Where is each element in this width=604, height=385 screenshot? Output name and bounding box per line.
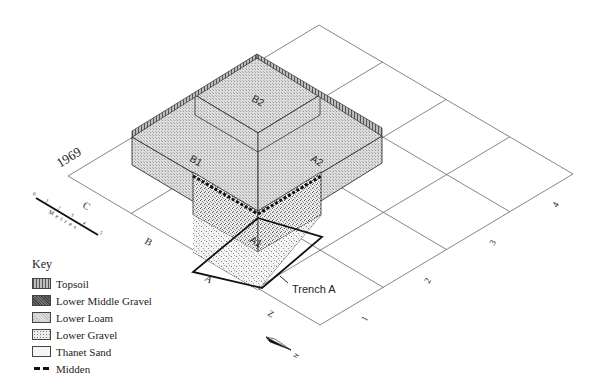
scale-tick-5: 5 xyxy=(99,230,104,236)
col-label-2: 2 xyxy=(422,276,433,285)
midden-swatch-icon xyxy=(32,363,51,374)
row-label-z: Z xyxy=(266,308,276,319)
legend-item-midden: Midden xyxy=(32,360,202,377)
topsoil-swatch-icon xyxy=(32,278,51,289)
legend-item-lower-loam: Lower Loam xyxy=(32,309,202,326)
year-label: 1969 xyxy=(54,144,84,170)
col-label-1: 1 xyxy=(359,314,370,323)
scale-unit-label: Metres xyxy=(47,209,80,232)
north-arrow-half xyxy=(266,337,291,350)
legend-label: Lower Loam xyxy=(56,312,113,324)
legend-label: Thanet Sand xyxy=(56,346,111,358)
legend-item-lower-middle-gravel: Lower Middle Gravel xyxy=(32,292,202,309)
col-label-4: 4 xyxy=(550,200,561,209)
trench-a-label: Trench A xyxy=(292,283,336,295)
row-label-c: C xyxy=(81,199,93,212)
lower-gravel-swatch-icon xyxy=(32,329,51,340)
legend-title: Key xyxy=(32,257,202,272)
legend-item-lower-gravel: Lower Gravel xyxy=(32,326,202,343)
scale-tick-3: 3 xyxy=(70,212,75,218)
legend-label: Lower Gravel xyxy=(56,329,117,341)
scale-bar: 0 1 2 3 4 5 Metres xyxy=(32,191,104,236)
lower-middle-gravel-swatch-icon xyxy=(32,295,51,306)
scale-tick-0: 0 xyxy=(32,191,37,197)
north-arrow-label: N xyxy=(292,352,299,359)
thanet-sand-swatch-icon xyxy=(32,346,51,357)
row-label-b: B xyxy=(143,235,155,248)
north-arrow: N xyxy=(266,337,300,359)
legend-label: Midden xyxy=(56,363,90,375)
legend: Key Topsoil Lower Middle Gravel Lower Lo… xyxy=(32,257,202,377)
legend-item-thanet-sand: Thanet Sand xyxy=(32,343,202,360)
col-label-3: 3 xyxy=(487,238,498,247)
excavation-block xyxy=(132,54,382,290)
legend-label: Topsoil xyxy=(56,278,89,290)
legend-label: Lower Middle Gravel xyxy=(56,295,152,307)
legend-item-topsoil: Topsoil xyxy=(32,275,202,292)
trench-a-pointer xyxy=(280,276,288,283)
lower-loam-swatch-icon xyxy=(32,312,51,323)
